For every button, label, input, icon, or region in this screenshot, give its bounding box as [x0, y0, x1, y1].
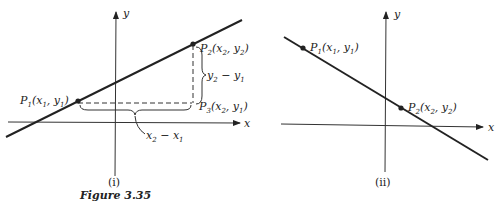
point-p2	[190, 41, 195, 46]
rise-brace	[196, 47, 206, 104]
p1-label: P1(x1, y1)	[309, 41, 359, 56]
run-label: x2 − x1	[146, 129, 184, 144]
x-axis-label: x	[488, 121, 495, 134]
p2-label: P2(x2, y2)	[407, 101, 457, 116]
x-axis-label: x	[244, 117, 251, 130]
panel-ii-label: (ii)	[375, 176, 391, 189]
y-axis	[385, 12, 386, 172]
run-leader	[135, 116, 145, 134]
run-brace	[80, 105, 191, 115]
panel-i-label: (i)	[108, 176, 120, 189]
panel-i: y x P1(x1, y1) P2(x2, y2) P3(x2, y1) y2 …	[6, 7, 251, 202]
p3-label: P3(x2, y1)	[198, 100, 248, 115]
y-axis-label: y	[393, 8, 401, 21]
point-p1	[300, 45, 305, 50]
x-axis	[281, 124, 483, 127]
point-p2	[398, 105, 403, 110]
figure-caption: Figure 3.35	[79, 189, 151, 202]
rise-label: y2 − y1	[206, 69, 245, 84]
y-axis	[115, 12, 116, 176]
figure-3-35: y x P1(x1, y1) P2(x2, y2) P3(x2, y1) y2 …	[0, 0, 501, 202]
p2-label: P2(x2, y2)	[199, 42, 249, 57]
panel-ii: y x P1(x1, y1) P2(x2, y2) (ii)	[281, 8, 495, 189]
y-axis-label: y	[122, 7, 130, 20]
x-axis	[8, 122, 240, 123]
p1-label: P1(x1, y1)	[19, 94, 69, 109]
point-p1	[75, 98, 80, 103]
